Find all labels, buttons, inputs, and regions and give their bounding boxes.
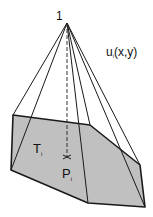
- function-label: ui(x,y): [106, 45, 137, 59]
- support-polygon: [11, 115, 145, 207]
- diagram-svg: 1 ui(x,y) Ti Pi: [0, 0, 153, 217]
- triangle-label: Ti: [33, 141, 42, 157]
- apex-label: 1: [56, 9, 63, 23]
- pyramid-basis-function-diagram: 1 ui(x,y) Ti Pi: [0, 0, 153, 217]
- point-label: Pi: [62, 166, 72, 182]
